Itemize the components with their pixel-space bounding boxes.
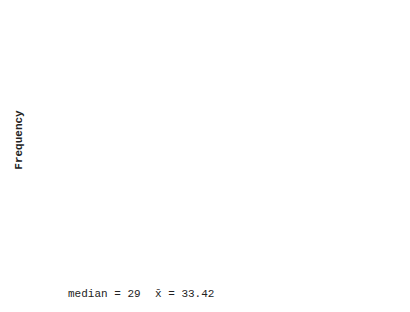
median-label: median = 29 bbox=[68, 288, 141, 300]
histogram-chart: Frequency median = 29 x̄ = 33.42 bbox=[0, 0, 410, 312]
annotations: median = 29 x̄ = 33.42 bbox=[68, 288, 214, 300]
mean-label: x̄ = 33.42 bbox=[155, 288, 214, 300]
y-axis-label: Frequency bbox=[13, 110, 25, 170]
